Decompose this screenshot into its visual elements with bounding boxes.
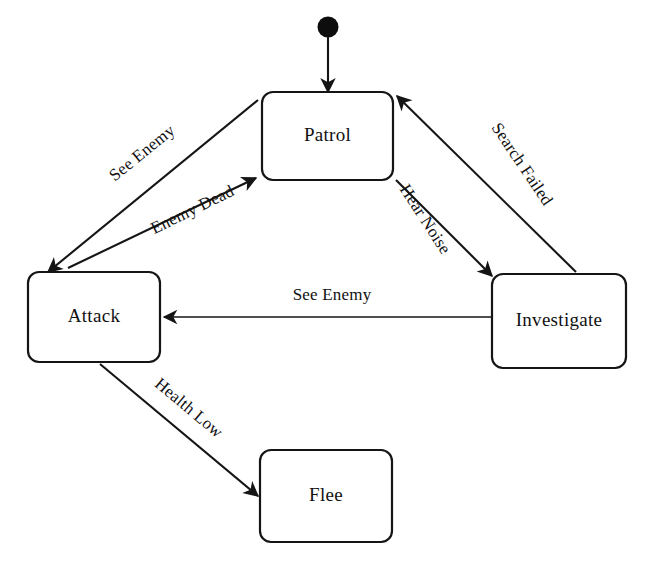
state-label-investigate: Investigate <box>516 309 603 330</box>
state-node-attack[interactable]: Attack <box>28 272 160 362</box>
edge-line-search-failed <box>397 96 576 272</box>
edge-label-enemy-dead: Enemy Dead <box>148 181 238 238</box>
transition-attack-to-patrol[interactable]: Enemy Dead <box>68 178 256 268</box>
state-label-flee: Flee <box>309 484 343 505</box>
transition-patrol-to-investigate[interactable]: Hear Noise <box>396 180 492 276</box>
transition-investigate-to-attack[interactable]: See Enemy <box>164 285 492 317</box>
edge-label-hear-noise: Hear Noise <box>396 181 455 258</box>
state-node-patrol[interactable]: Patrol <box>262 92 393 180</box>
fsm-canvas: See Enemy Enemy Dead Hear Noise Search F… <box>0 0 646 569</box>
edge-label-health-low: Health Low <box>151 374 227 442</box>
initial-state-dot <box>318 17 339 38</box>
state-label-patrol: Patrol <box>304 124 351 145</box>
edge-line-health-low <box>100 364 258 496</box>
transition-attack-to-flee[interactable]: Health Low <box>100 364 258 496</box>
initial-state-marker <box>318 17 339 93</box>
transition-investigate-to-patrol[interactable]: Search Failed <box>397 96 576 272</box>
edge-label-see-enemy-patrol-attack: See Enemy <box>105 120 178 185</box>
state-label-attack: Attack <box>68 305 121 326</box>
state-node-flee[interactable]: Flee <box>260 450 392 542</box>
state-node-investigate[interactable]: Investigate <box>492 274 626 368</box>
edge-label-see-enemy-investigate-attack: See Enemy <box>293 285 372 304</box>
state-machine-diagram: See Enemy Enemy Dead Hear Noise Search F… <box>0 0 646 569</box>
